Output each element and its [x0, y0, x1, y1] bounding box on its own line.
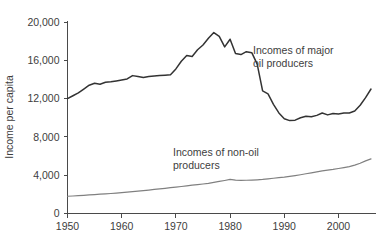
annotation-line: Incomes of major — [253, 44, 334, 56]
line-chart: 04,0008,00012,00016,00020,000 1950196019… — [0, 0, 378, 250]
y-tick-label: 20,000 — [27, 16, 59, 28]
annotation-line: producers — [173, 159, 220, 171]
y-tick-label: 16,000 — [27, 54, 59, 66]
series-annotations: Incomes of majoroil producersIncomes of … — [173, 44, 334, 171]
y-axis-title: Income per capita — [3, 75, 15, 159]
annotation-line: Incomes of non-oil — [173, 146, 259, 158]
annotation-line: oil producers — [253, 57, 313, 69]
x-tick-label: 1950 — [56, 220, 80, 232]
y-tick-label: 4,000 — [33, 169, 59, 181]
x-tick-label: 1980 — [218, 220, 242, 232]
series-lines — [68, 33, 372, 197]
non-oil-producers-label: Incomes of non-oilproducers — [173, 146, 259, 171]
y-tick-label: 0 — [54, 207, 60, 219]
x-tick-label: 1970 — [164, 220, 188, 232]
x-tick-label: 1960 — [110, 220, 134, 232]
y-axis-ticks: 04,0008,00012,00016,00020,000 — [27, 16, 67, 220]
x-tick-label: 2000 — [327, 220, 351, 232]
x-axis-ticks: 195019601970198019902000 — [56, 214, 351, 232]
y-tick-label: 8,000 — [33, 131, 59, 143]
major-oil-producers-label: Incomes of majoroil producers — [253, 44, 334, 69]
x-tick-label: 1990 — [273, 220, 297, 232]
chart-canvas: 04,0008,00012,00016,00020,000 1950196019… — [0, 0, 378, 250]
y-tick-label: 12,000 — [27, 92, 59, 104]
